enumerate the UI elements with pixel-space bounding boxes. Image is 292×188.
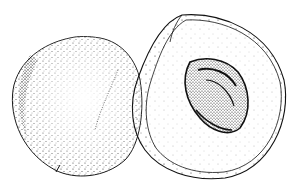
- halved-peach: [132, 15, 285, 179]
- peach-illustration: Peach illustration: [0, 0, 292, 188]
- whole-peach: [12, 37, 141, 176]
